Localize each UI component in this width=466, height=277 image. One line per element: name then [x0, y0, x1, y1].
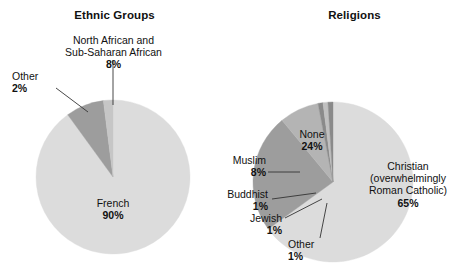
label-christian-line3: Roman Catholic) [352, 184, 464, 196]
label-christian: Christian (overwhelmingly Roman Catholic… [352, 160, 464, 209]
label-other-ethnic: Other 2% [12, 70, 38, 94]
label-none: None 24% [285, 128, 339, 152]
ethnic-groups-pie [36, 100, 190, 254]
label-north-african-sub-saharan: North African and Sub-Saharan African 8% [36, 34, 191, 71]
label-jewish-pct: 1% [194, 224, 282, 236]
label-christian-line1: Christian [352, 160, 464, 172]
label-christian-line2: (overwhelmingly [352, 172, 464, 184]
label-buddhist: Buddhist 1% [176, 188, 268, 212]
label-jewish: Jewish 1% [194, 212, 282, 236]
label-muslim: Muslim 8% [178, 154, 266, 178]
label-north-african-line2: Sub-Saharan African [36, 46, 191, 58]
label-other-religion-name: Other [288, 238, 314, 250]
label-other-religion-pct: 1% [288, 250, 314, 262]
label-none-name: None [285, 128, 339, 140]
label-other-religion: Other 1% [288, 238, 314, 262]
label-none-pct: 24% [285, 140, 339, 152]
label-muslim-pct: 8% [178, 166, 266, 178]
label-christian-pct: 65% [352, 197, 464, 209]
leader-line-other-ethnic [56, 88, 88, 112]
label-other-ethnic-name: Other [12, 70, 38, 82]
label-jewish-name: Jewish [194, 212, 282, 224]
label-north-african-pct: 8% [36, 58, 191, 70]
label-buddhist-pct: 1% [176, 200, 268, 212]
label-french-name: French [73, 197, 153, 209]
label-buddhist-name: Buddhist [176, 188, 268, 200]
label-muslim-name: Muslim [178, 154, 266, 166]
label-french-pct: 90% [73, 209, 153, 221]
label-north-african-line1: North African and [36, 34, 191, 46]
label-french: French 90% [73, 197, 153, 221]
label-other-ethnic-pct: 2% [12, 82, 38, 94]
